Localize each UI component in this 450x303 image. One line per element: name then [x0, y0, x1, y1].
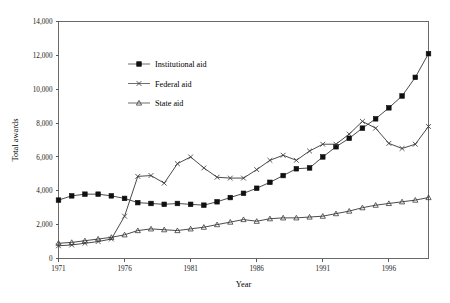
legend-item-label: Institutional aid [155, 60, 207, 69]
y-axis-tick-label: 8,000 [36, 120, 53, 128]
legend-item-label: Federal aid [155, 80, 192, 89]
data-point [387, 106, 392, 111]
data-point [254, 167, 259, 172]
data-point [386, 141, 391, 146]
y-axis-title: Total awards [11, 119, 20, 162]
data-point [162, 202, 167, 207]
data-point [202, 203, 207, 208]
y-axis-tick-label: 14,000 [33, 18, 53, 26]
series-federal-aid [56, 119, 431, 248]
data-point [347, 136, 352, 141]
data-point [400, 146, 405, 151]
data-point [175, 201, 180, 206]
y-axis-tick-label: 0 [49, 255, 53, 263]
data-point [188, 202, 193, 207]
legend-item-label: State aid [155, 99, 183, 108]
data-point [320, 155, 325, 160]
data-point [188, 155, 193, 160]
data-point [83, 192, 88, 197]
y-axis-tick-label: 10,000 [33, 86, 53, 94]
series-line [59, 54, 429, 206]
chart-figure: 02,0004,0006,0008,00010,00012,00014,0001… [0, 0, 450, 303]
data-point [334, 144, 339, 149]
legend-marker [137, 62, 142, 67]
data-point [254, 186, 259, 191]
plot-frame [59, 22, 429, 259]
data-point [56, 198, 61, 203]
x-axis-title: Year [236, 280, 252, 289]
data-point [360, 119, 365, 124]
line-chart: 02,0004,0006,0008,00010,00012,00014,0001… [0, 0, 450, 303]
data-point [373, 126, 378, 131]
x-axis-tick-label: 1991 [316, 265, 331, 273]
y-axis-tick-label: 12,000 [33, 52, 53, 60]
series-line [59, 198, 429, 244]
data-point [135, 200, 140, 205]
y-axis-tick-label: 2,000 [36, 221, 53, 229]
x-axis-tick-label: 1986 [250, 265, 265, 273]
data-point [149, 201, 154, 206]
data-point [69, 194, 74, 199]
data-point [307, 166, 312, 171]
data-point [307, 149, 312, 154]
x-axis-tick-label: 1976 [117, 265, 132, 273]
x-axis-tick-label: 1996 [382, 265, 397, 273]
chart-legend: Institutional aidFederal aidState aid [128, 60, 207, 108]
data-point [360, 126, 365, 131]
data-point [96, 192, 101, 197]
data-point [294, 158, 299, 163]
data-point [175, 161, 180, 166]
series-line [59, 121, 429, 245]
data-point [281, 173, 286, 178]
data-point [426, 51, 431, 56]
data-point [268, 158, 273, 163]
x-axis-tick-label: 1981 [183, 265, 198, 273]
data-point [373, 117, 378, 122]
data-point [413, 75, 418, 80]
data-point [109, 194, 114, 199]
data-point [294, 166, 299, 171]
data-point [122, 196, 127, 201]
y-axis-tick-label: 4,000 [36, 187, 53, 195]
data-point [162, 181, 167, 186]
data-point [413, 142, 418, 147]
data-point [215, 199, 220, 204]
data-point [281, 153, 286, 158]
data-point [241, 191, 246, 196]
data-point [122, 214, 127, 219]
data-point [400, 94, 405, 99]
data-point [201, 166, 206, 171]
x-axis-tick-label: 1971 [51, 265, 66, 273]
data-point [268, 180, 273, 185]
data-point [228, 195, 233, 200]
y-axis-tick-label: 6,000 [36, 154, 53, 162]
